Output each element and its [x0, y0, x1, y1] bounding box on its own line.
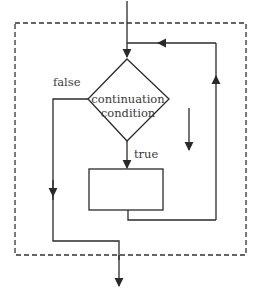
body-exit-line — [128, 210, 216, 220]
loop-body-box — [89, 169, 163, 210]
while-loop-flowchart: continuation condition true false — [0, 0, 264, 299]
decision-label-line2: condition — [101, 106, 156, 120]
false-label: false — [53, 75, 81, 89]
true-label: true — [134, 147, 159, 161]
decision-label-line1: continuation — [91, 92, 165, 106]
false-branch-line — [53, 99, 88, 200]
